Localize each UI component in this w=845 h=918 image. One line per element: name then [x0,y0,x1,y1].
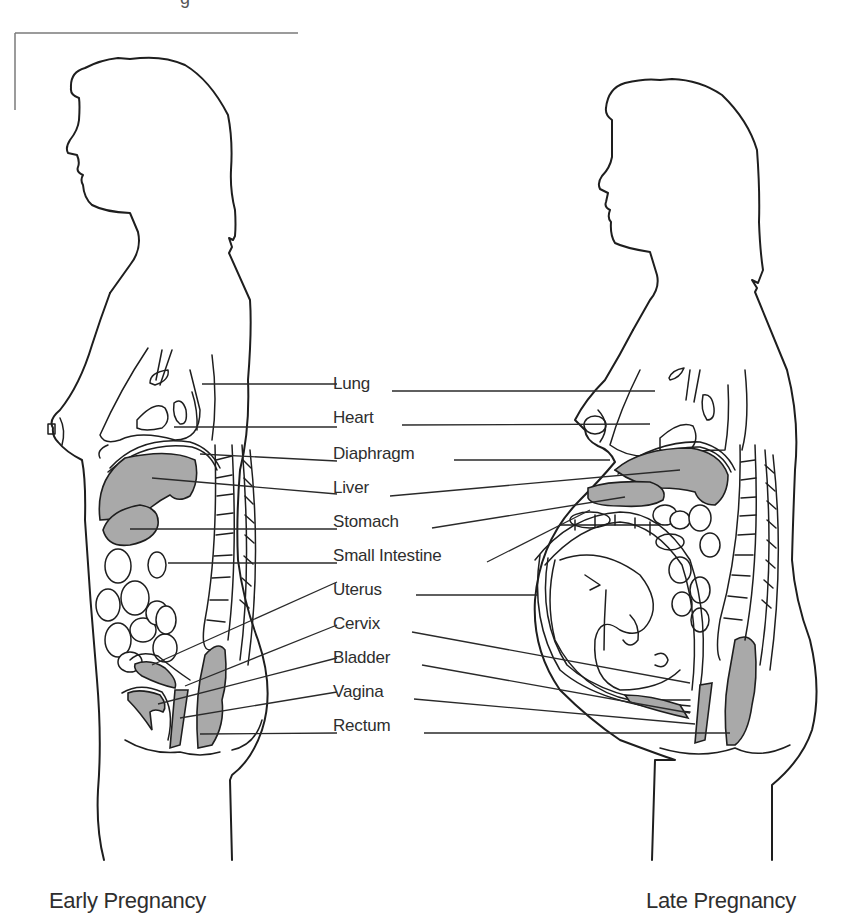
late-rectum [725,637,756,745]
label-stomach: Stomach [333,512,399,532]
label-uterus: Uterus [333,580,382,600]
label-small-intestine: Small Intestine [333,546,442,566]
pregnancy-anatomy-diagram [0,0,845,918]
leader-heart-right [402,424,650,425]
label-cervix: Cervix [333,614,380,634]
leader-rectum-left [200,733,337,734]
leader-bladder-right [422,665,690,713]
late-stomach [588,482,664,507]
late-pregnancy-figure [535,79,817,860]
label-heart: Heart [333,408,374,428]
caption-late-pregnancy: Late Pregnancy [646,888,796,914]
early-bladder [128,691,165,730]
leader-diaphragm-left [200,454,337,461]
label-rectum: Rectum [333,716,390,736]
early-spine [203,445,255,665]
early-pregnancy-figure [48,58,268,860]
late-intestines [570,505,720,632]
label-bladder: Bladder [333,648,390,668]
label-diaphragm: Diaphragm [333,444,414,464]
late-vagina [695,683,712,743]
label-liver: Liver [333,478,369,498]
leader-intestine-right [487,510,590,562]
early-rectum [197,646,226,748]
caption-early-pregnancy: Early Pregnancy [49,888,206,914]
early-intestines [96,549,177,672]
late-nipple [584,416,606,434]
label-lung: Lung [333,374,370,394]
frame-corner [15,33,298,110]
label-vagina: Vagina [333,682,383,702]
